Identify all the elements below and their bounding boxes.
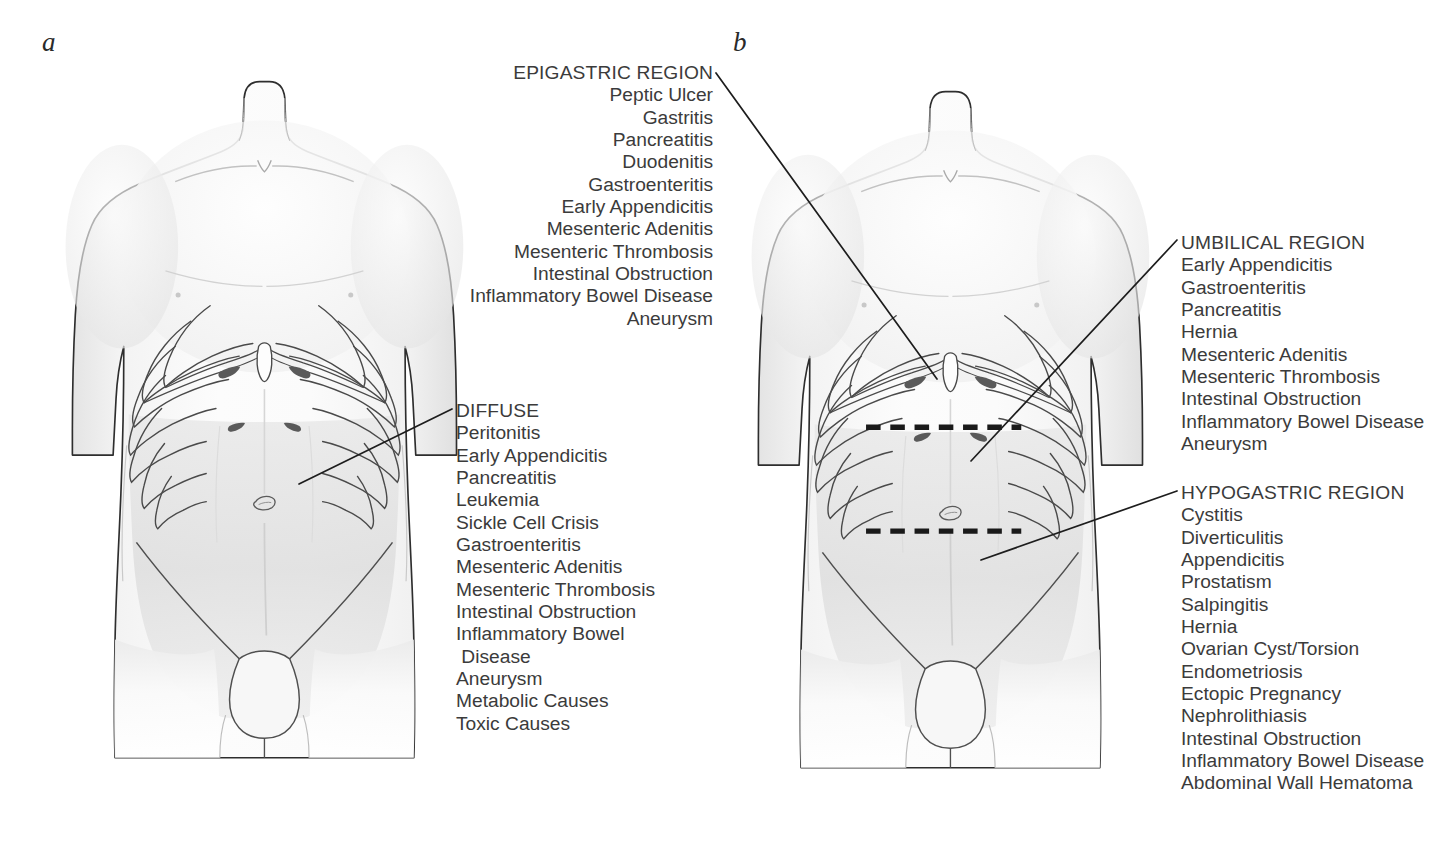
torso-figure-b xyxy=(752,92,1150,768)
callout-item: Diverticulitis xyxy=(1181,527,1449,549)
callout-item: Peritonitis xyxy=(456,422,756,444)
callout-item: Mesenteric Thrombosis xyxy=(456,579,756,601)
callout-item: Early Appendicitis xyxy=(456,445,756,467)
callout-item: Mesenteric Thrombosis xyxy=(358,241,713,263)
callout-item: Pancreatitis xyxy=(1181,299,1449,321)
callout-item: Disease xyxy=(456,646,756,668)
callout-item: Intestinal Obstruction xyxy=(456,601,756,623)
callout-item: Hernia xyxy=(1181,321,1449,343)
callout-diffuse: DIFFUSE Peritonitis Early Appendicitis P… xyxy=(456,400,756,735)
callout-item: Ectopic Pregnancy xyxy=(1181,683,1449,705)
callout-item: Duodenitis xyxy=(358,151,713,173)
callout-item: Endometriosis xyxy=(1181,661,1449,683)
callout-item: Inflammatory Bowel Disease xyxy=(1181,750,1449,772)
callout-item: Prostatism xyxy=(1181,571,1449,593)
callout-item: Aneurysm xyxy=(456,668,756,690)
callout-item: Inflammatory Bowel xyxy=(456,623,756,645)
callout-item: Pancreatitis xyxy=(358,129,713,151)
callout-item: Sickle Cell Crisis xyxy=(456,512,756,534)
callout-item: Salpingitis xyxy=(1181,594,1449,616)
callout-heading: UMBILICAL REGION xyxy=(1181,232,1449,254)
callout-item: Mesenteric Thrombosis xyxy=(1181,366,1449,388)
callout-item: Nephrolithiasis xyxy=(1181,705,1449,727)
callout-item: Toxic Causes xyxy=(456,713,756,735)
callout-item: Gastritis xyxy=(358,107,713,129)
callout-item: Inflammatory Bowel Disease xyxy=(358,285,713,307)
callout-item: Inflammatory Bowel Disease xyxy=(1181,411,1449,433)
callout-item: Pancreatitis xyxy=(456,467,756,489)
callout-item: Gastroenteritis xyxy=(456,534,756,556)
panel-letter-b: b xyxy=(733,27,747,58)
figure-canvas: a b EPIGASTRIC REGION Peptic Ulcer Gastr… xyxy=(0,0,1450,843)
callout-item: Intestinal Obstruction xyxy=(358,263,713,285)
callout-item: Intestinal Obstruction xyxy=(1181,728,1449,750)
panel-letter-a: a xyxy=(42,27,56,58)
callout-item: Peptic Ulcer xyxy=(358,84,713,106)
callout-item: Mesenteric Adenitis xyxy=(456,556,756,578)
callout-epigastric-region: EPIGASTRIC REGION Peptic Ulcer Gastritis… xyxy=(358,62,713,330)
callout-item: Intestinal Obstruction xyxy=(1181,388,1449,410)
callout-item: Leukemia xyxy=(456,489,756,511)
callout-item: Gastroenteritis xyxy=(1181,277,1449,299)
callout-item: Mesenteric Adenitis xyxy=(358,218,713,240)
callout-item: Early Appendicitis xyxy=(1181,254,1449,276)
callout-item: Aneurysm xyxy=(358,308,713,330)
callout-item: Appendicitis xyxy=(1181,549,1449,571)
callout-item: Cystitis xyxy=(1181,504,1449,526)
callout-item: Aneurysm xyxy=(1181,433,1449,455)
callout-item: Early Appendicitis xyxy=(358,196,713,218)
callout-hypogastric-region: HYPOGASTRIC REGION Cystitis Diverticulit… xyxy=(1181,482,1449,795)
callout-umbilical-region: UMBILICAL REGION Early Appendicitis Gast… xyxy=(1181,232,1449,455)
callout-item: Mesenteric Adenitis xyxy=(1181,344,1449,366)
callout-heading: DIFFUSE xyxy=(456,400,756,422)
callout-item: Ovarian Cyst/Torsion xyxy=(1181,638,1449,660)
callout-heading: HYPOGASTRIC REGION xyxy=(1181,482,1449,504)
callout-item: Abdominal Wall Hematoma xyxy=(1181,772,1449,794)
callout-item: Gastroenteritis xyxy=(358,174,713,196)
callout-heading: EPIGASTRIC REGION xyxy=(358,62,713,84)
callout-item: Hernia xyxy=(1181,616,1449,638)
callout-item: Metabolic Causes xyxy=(456,690,756,712)
